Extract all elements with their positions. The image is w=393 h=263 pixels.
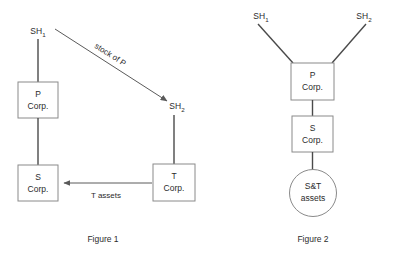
fig1-edge-label-t-assets: T assets [91,191,121,200]
fig2-pcorp-label-line2: Corp. [302,82,323,92]
fig1-tcorp-label-line1: T [171,171,176,181]
fig1-caption: Figure 1 [87,234,118,244]
fig2-sh1-label: SH1 [253,11,269,22]
fig2-assets-label-line1: S&T [305,181,322,191]
fig2-scorp-label-line2: Corp. [302,135,323,145]
fig1-tcorp-label-line2: Corp. [164,183,185,193]
fig1-scorp-box [18,165,58,201]
fig2-sh2-label: SH2 [356,11,372,22]
fig2-caption: Figure 2 [297,234,328,244]
fig2-pcorp-label-line1: P [310,70,316,80]
fig1-pcorp-label-line2: Corp. [28,101,49,111]
fig2-scorp-label-line1: S [310,123,316,133]
figure-2-group: SH1 SH2 P Corp. S Corp. S&T assets [253,11,372,244]
fig1-sh2-label: SH2 [169,101,185,112]
fig2-connector-sh2-to-pcorp [332,24,366,63]
fig1-scorp-label-line1: S [35,172,41,182]
fig1-sh1-label: SH1 [30,26,46,37]
fig2-scorp-box [292,116,333,152]
fig1-pcorp-box [18,82,58,118]
diagram-canvas: SH1 P Corp. S Corp. SH2 T Corp. stock o [0,0,393,263]
fig2-connector-sh1-to-pcorp [258,24,293,63]
diagram-root: SH1 P Corp. S Corp. SH2 T Corp. stock o [0,0,393,263]
fig2-assets-label-line2: assets [301,193,326,203]
fig1-pcorp-label-line1: P [35,89,41,99]
fig1-arrow-stock-of-p [55,29,167,101]
figure-1-group: SH1 P Corp. S Corp. SH2 T Corp. stock o [18,26,195,244]
fig1-scorp-label-line2: Corp. [28,184,49,194]
